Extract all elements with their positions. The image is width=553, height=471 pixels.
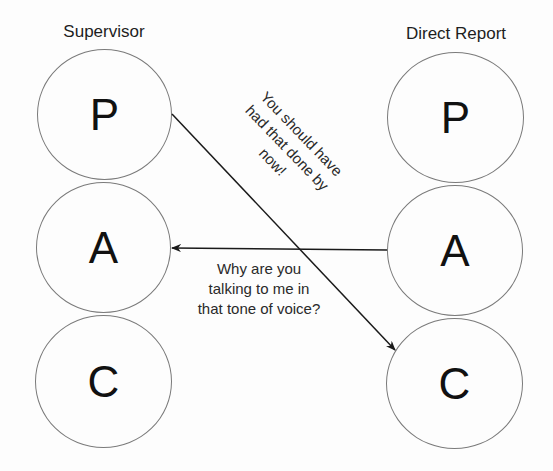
transaction-arrows	[0, 0, 553, 471]
arrow-report-a-to-supervisor-a	[172, 248, 387, 250]
pac-transaction-diagram: Supervisor Direct Report P A C P A C You…	[0, 0, 553, 471]
direct-report-message-line-2: talking to me in	[193, 279, 325, 299]
direct-report-message-line-1: Why are you	[193, 259, 325, 279]
direct-report-message: Why are you talking to me in that tone o…	[193, 259, 325, 321]
direct-report-message-line-3: that tone of voice?	[193, 299, 325, 319]
